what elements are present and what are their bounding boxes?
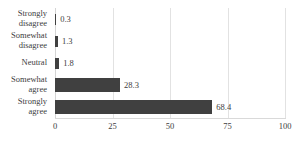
category-label: Somewhat disagree: [0, 30, 50, 52]
x-tick-label: 0: [53, 122, 57, 131]
bar-row: 28.3: [55, 74, 285, 96]
x-tick-label: 50: [166, 122, 175, 131]
bar-row: 0.3: [55, 8, 285, 30]
category-label: Strongly agree: [0, 96, 50, 118]
bar-row: 68.4: [55, 96, 285, 118]
bar-somewhat-agree: [55, 78, 120, 92]
category-label: Strongly disagree: [0, 8, 50, 30]
bar-chart: Strongly disagree Somewhat disagree Neut…: [0, 0, 300, 146]
bar-neutral: [55, 58, 59, 69]
x-axis-tick-labels: 0255075100: [0, 122, 300, 138]
x-axis-line: [55, 118, 286, 119]
category-label: Somewhat agree: [0, 74, 50, 96]
bar-strongly-disagree: [55, 14, 56, 25]
gridline: [285, 8, 286, 118]
x-tick-label: 75: [223, 122, 232, 131]
x-tick-label: 100: [279, 122, 292, 131]
x-tick-label: 25: [108, 122, 117, 131]
bar-row: 1.8: [55, 52, 285, 74]
bar-value-label: 0.3: [60, 15, 71, 24]
bar-somewhat-disagree: [55, 36, 58, 47]
plot-area: 0.3 1.3 1.8 28.3 68.4: [55, 8, 285, 118]
category-label: Neutral: [0, 52, 50, 74]
bar-row: 1.3: [55, 30, 285, 52]
category-axis-labels: Strongly disagree Somewhat disagree Neut…: [0, 8, 50, 118]
bar-rows: 0.3 1.3 1.8 28.3 68.4: [55, 8, 285, 118]
bar-value-label: 1.8: [63, 59, 74, 68]
bar-value-label: 1.3: [62, 37, 73, 46]
bar-strongly-agree: [55, 100, 212, 114]
bar-value-label: 28.3: [124, 81, 139, 90]
bar-value-label: 68.4: [216, 103, 231, 112]
